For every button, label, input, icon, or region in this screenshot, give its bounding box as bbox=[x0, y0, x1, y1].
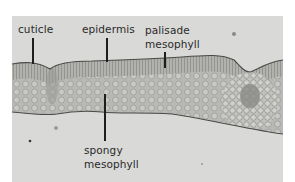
label-palisade-line2: mesophyll bbox=[145, 38, 200, 50]
label-cuticle: cuticle bbox=[18, 23, 53, 35]
palisade-mesophyll-pointer-line bbox=[164, 52, 166, 68]
label-cuticle-text: cuticle bbox=[18, 23, 53, 35]
label-spongy-line2: mesophyll bbox=[84, 158, 139, 170]
label-palisade-line1: palisade bbox=[145, 24, 200, 36]
label-spongy-mesophyll: spongy mesophyll bbox=[84, 144, 139, 170]
cuticle-pointer-line bbox=[32, 38, 34, 64]
spongy-mesophyll-pointer-line bbox=[104, 94, 106, 141]
leaf-cross-section-figure: cuticle epidermis palisade mesophyll spo… bbox=[0, 0, 295, 182]
epidermis-pointer-line bbox=[106, 38, 108, 62]
label-palisade-mesophyll: palisade mesophyll bbox=[145, 24, 200, 50]
label-epidermis-text: epidermis bbox=[82, 23, 135, 35]
label-spongy-line1: spongy bbox=[84, 144, 139, 156]
label-epidermis: epidermis bbox=[82, 23, 135, 35]
